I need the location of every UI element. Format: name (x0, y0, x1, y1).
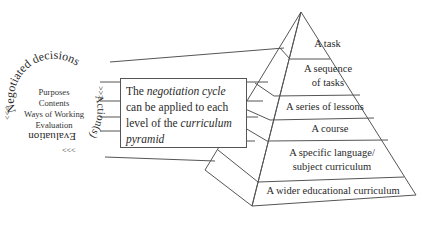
callout-italic-negotiation-cycle: negotiation cycle (147, 85, 226, 97)
level-line: A task (305, 37, 350, 51)
level-line: A series of lessons (275, 100, 375, 114)
cycle-item: Contents (23, 98, 85, 109)
arrows-right: >>> (96, 86, 105, 100)
cycle-item: Evaluation (23, 120, 85, 131)
pyramid-level-sequence: A sequence of tasks (288, 62, 368, 90)
pyramid-level-series: A series of lessons (275, 100, 375, 114)
level-line: A wider educational curriculum (258, 184, 408, 198)
arrows-bottom: <<< (62, 146, 76, 155)
cycle-item: Purposes (23, 87, 85, 98)
pyramid-level-subject-curriculum: A specific language/ subject curriculum (272, 146, 392, 174)
level-line: of tasks (288, 76, 368, 90)
level-line: A specific language/ (272, 146, 392, 160)
pyramid-level-wider-curriculum: A wider educational curriculum (258, 184, 408, 198)
callout-text: The (126, 85, 147, 97)
arrows-left: <<< (3, 106, 12, 120)
cycle-inner-list: Purposes Contents Ways of Working Evalua… (23, 87, 85, 131)
cycle-label-evaluation: Evaluation (28, 131, 76, 143)
cycle-label-actions: Action(s) (87, 93, 108, 141)
callout-box: The negotiation cycle can be applied to … (120, 78, 247, 148)
level-line: subject curriculum (272, 160, 392, 174)
pyramid-level-task: A task (305, 37, 350, 51)
pyramid-level-course: A course (290, 122, 370, 136)
level-line: A sequence (288, 62, 368, 76)
level-line: A course (290, 122, 370, 136)
cycle-item: Ways of Working (23, 109, 85, 120)
